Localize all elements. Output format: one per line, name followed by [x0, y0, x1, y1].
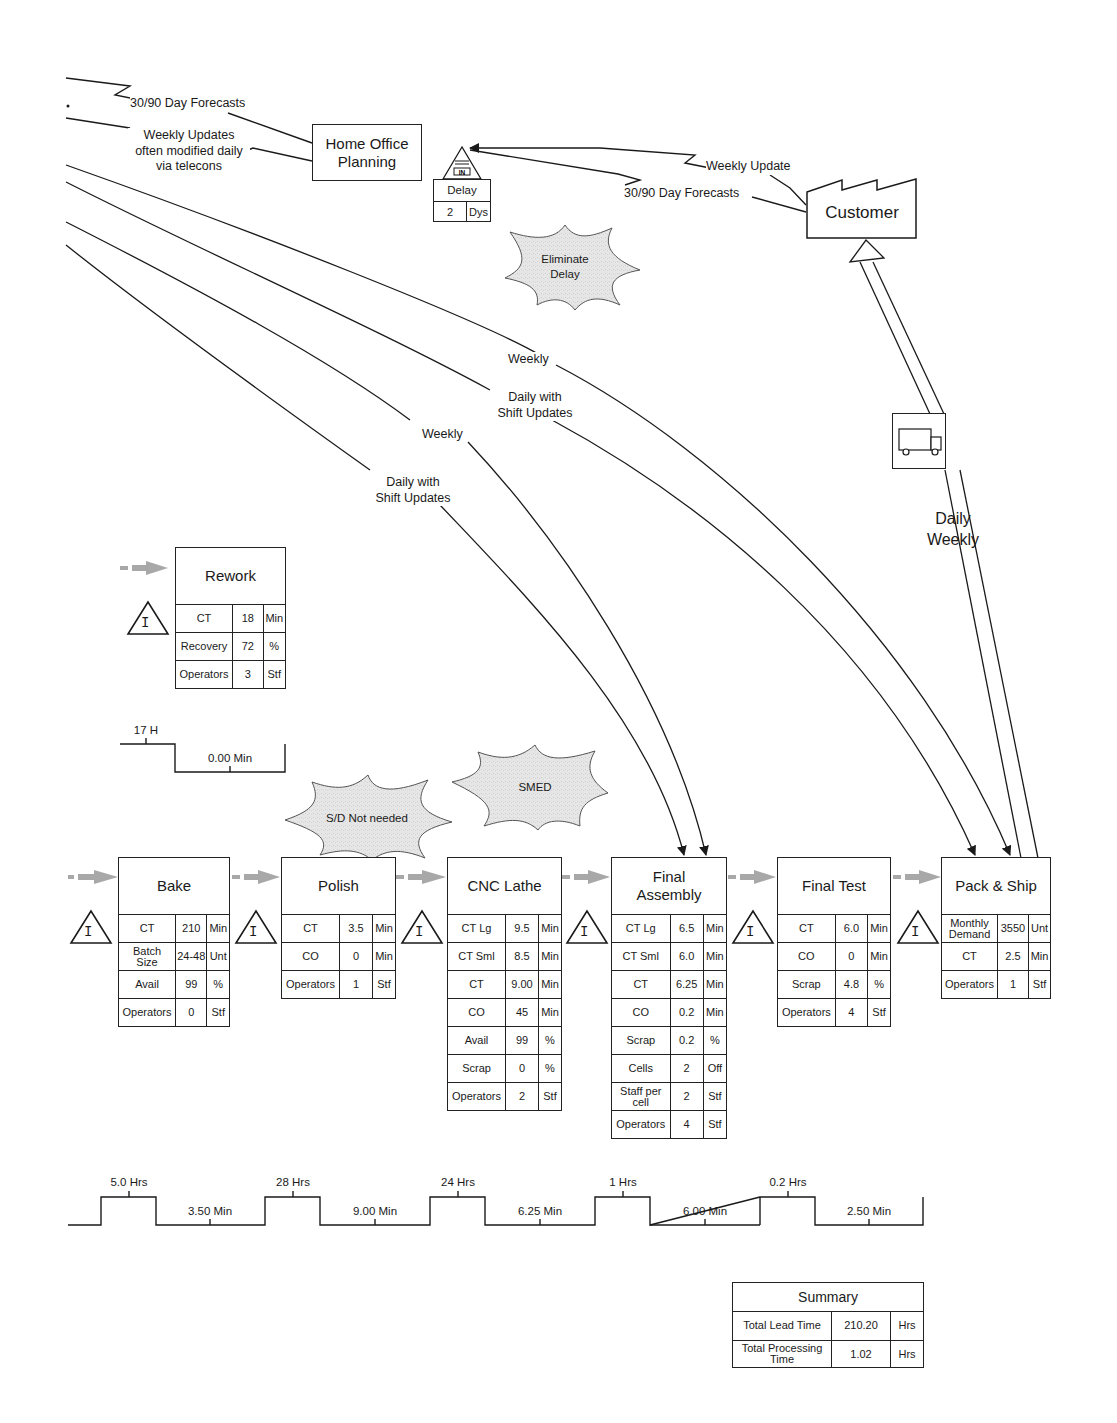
table-row: Operators3Stf	[176, 661, 285, 689]
rework-wait-time: 17 H	[106, 724, 186, 736]
process-title-text: Final	[653, 868, 686, 886]
summary-title: Summary	[733, 1283, 923, 1312]
row-value: 0.2	[670, 1027, 703, 1055]
row-label: CO	[448, 999, 506, 1027]
row-unit: Stf	[703, 1083, 726, 1111]
row-unit: %	[263, 633, 285, 661]
weekly-updates-label: Weekly Updates often modified daily via …	[128, 128, 250, 175]
row-unit: Stf	[703, 1111, 726, 1139]
row-unit: Stf	[1029, 971, 1050, 999]
row-unit: Min	[868, 943, 890, 971]
process-box-rework[interactable]: Rework CT18Min Recovery72% Operators3Stf	[175, 547, 286, 689]
row-unit: %	[868, 971, 890, 999]
table-row: Recovery72%	[176, 633, 285, 661]
process-title: CNC Lathe	[448, 858, 561, 915]
row-label: BatchSize	[119, 943, 176, 971]
table-row: Scrap4.8%	[778, 971, 890, 999]
process-time-2: 9.00 Min	[335, 1205, 415, 1217]
process-title-text: Pack & Ship	[955, 877, 1037, 895]
row-unit: %	[539, 1055, 562, 1083]
kaizen-sd-not-needed-text: S/D Not needed	[312, 811, 422, 826]
summary-unit: Hrs	[891, 1340, 924, 1368]
row-unit: Min	[868, 915, 890, 943]
row-label: Cells	[612, 1055, 670, 1083]
inventory-icon-assembly: I	[580, 924, 588, 940]
row-unit: Stf	[263, 661, 285, 689]
process-title: Bake	[119, 858, 229, 915]
row-label: Scrap	[778, 971, 835, 999]
table-row: CT210Min	[119, 915, 229, 943]
process-time-4: 6.00 Min	[665, 1205, 745, 1217]
row-unit: Min	[539, 971, 562, 999]
row-value: 18	[232, 605, 263, 633]
table-row: CT6.25Min	[612, 971, 726, 999]
table-row: CT Sml8.5Min	[448, 943, 561, 971]
process-box-bake[interactable]: Bake CT210Min BatchSize24-48Unt Avail99%…	[118, 857, 230, 1027]
table-row: Scrap0%	[448, 1055, 561, 1083]
table-row: CO0Min	[282, 943, 395, 971]
row-value: 1	[997, 971, 1028, 999]
shipment-truck[interactable]	[892, 413, 946, 469]
table-row: Operators4Stf	[778, 999, 890, 1027]
row-value: 0	[506, 1055, 539, 1083]
flow-label-daily-shift-2: Daily with Shift Updates	[368, 475, 458, 506]
row-value: 3.5	[340, 915, 373, 943]
customer-forecast-label: 30/90 Day Forecasts	[624, 186, 739, 202]
shipment-label-weekly: Weekly	[918, 530, 988, 551]
table-row: CO0.2Min	[612, 999, 726, 1027]
table-row: CT9.00Min	[448, 971, 561, 999]
table-row: BatchSize24-48Unt	[119, 943, 229, 971]
process-box-final-test[interactable]: Final Test CT6.0Min CO0Min Scrap4.8% Ope…	[777, 857, 891, 1027]
process-time-5: 2.50 Min	[829, 1205, 909, 1217]
inventory-icon-cnc: I	[415, 924, 423, 940]
process-time-3: 6.25 Min	[500, 1205, 580, 1217]
svg-text:IN: IN	[459, 169, 466, 176]
row-label: Operators	[119, 999, 176, 1027]
summary-label: Total ProcessingTime	[733, 1340, 832, 1368]
process-box-cnc-lathe[interactable]: CNC Lathe CT Lg9.5Min CT Sml8.5Min CT9.0…	[447, 857, 562, 1111]
row-value: 8.5	[506, 943, 539, 971]
row-label-line: cell	[612, 1097, 670, 1108]
row-unit: Min	[703, 915, 726, 943]
table-row: Total Lead Time 210.20 Hrs	[733, 1312, 923, 1340]
process-title: Final Test	[778, 858, 890, 915]
table-row: Scrap0.2%	[612, 1027, 726, 1055]
weekly-update-label: Weekly Update	[706, 159, 791, 175]
row-unit: Min	[373, 943, 396, 971]
wait-time-2: 28 Hrs	[253, 1176, 333, 1188]
row-label: CO	[282, 943, 340, 971]
wait-time-5: 0.2 Hrs	[748, 1176, 828, 1188]
flow-label-line: Daily with	[490, 390, 580, 406]
process-box-polish[interactable]: Polish CT3.5Min CO0Min Operators1Stf	[281, 857, 396, 999]
table-row: Operators2Stf	[448, 1083, 561, 1111]
row-label: CT	[176, 605, 232, 633]
summary-rows: Total Lead Time 210.20 Hrs Total Process…	[733, 1312, 923, 1368]
summary-value: 1.02	[832, 1340, 891, 1368]
row-value: 0	[340, 943, 373, 971]
row-value: 6.0	[670, 943, 703, 971]
process-box-final-assembly[interactable]: Final Assembly CT Lg6.5Min CT Sml6.0Min …	[611, 857, 727, 1139]
inventory-icon-rework: I	[141, 615, 149, 631]
customer[interactable]: Customer	[806, 178, 918, 240]
row-unit: Stf	[373, 971, 396, 999]
table-row: CO0Min	[778, 943, 890, 971]
row-unit: Min	[539, 915, 562, 943]
row-label: Operators	[176, 661, 232, 689]
delay-box[interactable]: IN Delay 2 Dys	[433, 145, 491, 222]
row-label: MonthlyDemand	[942, 915, 997, 943]
row-value: 210	[176, 915, 207, 943]
process-title-text: Assembly	[636, 886, 701, 904]
process-box-pack-ship[interactable]: Pack & Ship MonthlyDemand3550Unt CT2.5Mi…	[941, 857, 1051, 999]
row-value: 9.5	[506, 915, 539, 943]
row-label: CT	[612, 971, 670, 999]
row-unit: Off	[703, 1055, 726, 1083]
row-unit: Unt	[207, 943, 229, 971]
wait-time-4: 1 Hrs	[583, 1176, 663, 1188]
customer-electronic-flow	[470, 148, 806, 212]
home-office-planning[interactable]: Home Office Planning	[312, 124, 422, 181]
row-value: 4.8	[835, 971, 867, 999]
row-unit: Min	[703, 999, 726, 1027]
summary-label: Total Lead Time	[733, 1312, 832, 1340]
process-data-table: CT Lg9.5Min CT Sml8.5Min CT9.00Min CO45M…	[448, 915, 561, 1110]
delay-value: 2	[434, 202, 467, 222]
